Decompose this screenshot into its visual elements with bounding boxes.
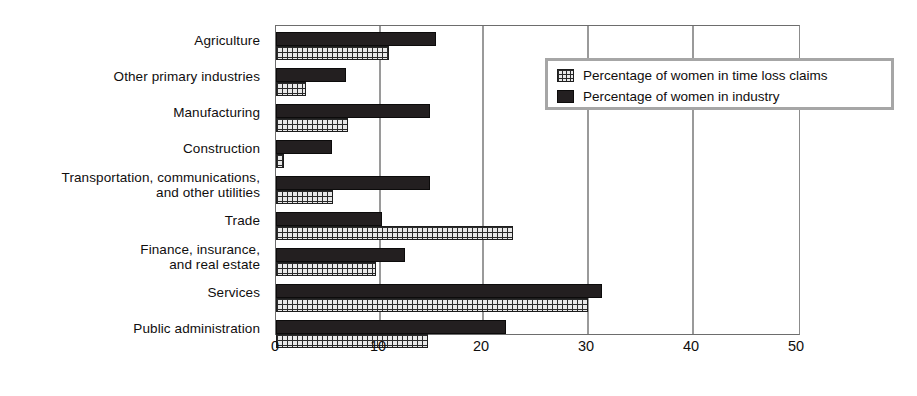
x-tick-0: 0 [271,338,279,354]
bar-industry-4 [276,176,430,190]
legend-item-women-in-industry: Percentage of women in industry [557,86,883,107]
bar-claims-3 [276,154,284,168]
bar-claims-1 [276,82,306,96]
x-tick-30: 30 [578,338,594,354]
x-tick-40: 40 [683,338,699,354]
bar-industry-5 [276,212,382,226]
bar-claims-0 [276,46,389,60]
x-tick-10: 10 [370,338,386,354]
category-label-agriculture: Agriculture [194,33,260,48]
bar-industry-6 [276,248,405,262]
hatch-swatch-icon [557,69,574,82]
bar-claims-7 [276,298,588,312]
bar-industry-7 [276,284,602,298]
bar-industry-1 [276,68,346,82]
dark-swatch-icon [557,90,574,103]
category-axis-labels: Agriculture Other primary industries Man… [0,25,268,335]
horizontal-bar-chart: Agriculture Other primary industries Man… [0,0,917,396]
legend-label-time-loss-claims: Percentage of women in time loss claims [583,68,828,83]
category-label-trade: Trade [225,213,260,228]
category-label-manufacturing: Manufacturing [173,105,260,120]
legend-item-time-loss-claims: Percentage of women in time loss claims [557,65,883,86]
x-tick-50: 50 [788,338,804,354]
bar-industry-0 [276,32,436,46]
category-label-construction: Construction [183,141,260,156]
legend-label-women-in-industry: Percentage of women in industry [583,89,780,104]
bar-industry-2 [276,104,430,118]
category-label-other-primary: Other primary industries [114,69,260,84]
bar-industry-3 [276,140,332,154]
chart-legend: Percentage of women in time loss claims … [545,58,894,110]
category-label-transportation: Transportation, communications, and othe… [62,170,260,200]
x-axis-ticks: 0 10 20 30 40 50 [275,338,800,362]
bar-claims-2 [276,118,348,132]
category-label-public-admin: Public administration [133,321,260,336]
category-label-finance: Finance, insurance, and real estate [140,242,260,272]
bar-claims-6 [276,262,376,276]
x-tick-20: 20 [473,338,489,354]
bar-claims-4 [276,190,333,204]
bar-claims-5 [276,226,513,240]
bar-industry-8 [276,320,506,334]
category-label-services: Services [207,285,260,300]
